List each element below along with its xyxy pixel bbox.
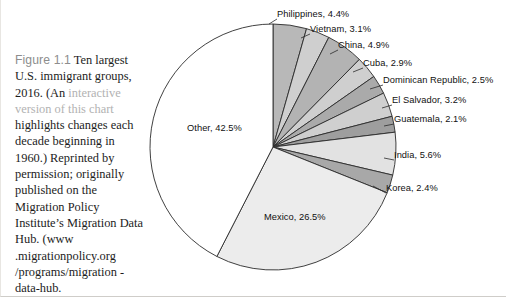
slice-label-guatemala: Guatemala, 2.1% xyxy=(394,114,467,124)
slice-label-mexico: Mexico, 26.5% xyxy=(264,212,326,222)
pie-chart xyxy=(1,0,506,297)
pie-slices xyxy=(150,24,396,270)
slice-label-philippines: Philippines, 4.4% xyxy=(277,9,349,19)
slice-label-other: Other, 42.5% xyxy=(187,123,242,133)
slice-label-china: China, 4.9% xyxy=(338,40,389,50)
slice-label-korea: Korea, 2.4% xyxy=(386,183,438,193)
slice-label-india: India, 5.6% xyxy=(394,150,441,160)
figure-page: Figure 1.1 Ten largest U.S. immigrant gr… xyxy=(0,0,506,297)
slice-label-el-salvador: El Salvador, 3.2% xyxy=(392,95,466,105)
leader-line-philippines xyxy=(269,19,277,24)
slice-label-dominican-republic: Dominican Republic, 2.5% xyxy=(383,75,493,85)
slice-label-vietnam: Vietnam, 3.1% xyxy=(310,24,371,34)
slice-label-cuba: Cuba, 2.9% xyxy=(363,58,412,68)
